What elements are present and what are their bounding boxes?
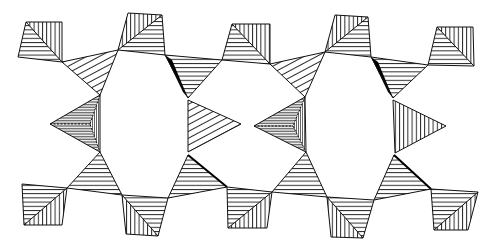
bottom-tetrahedron-2 (122, 195, 168, 236)
bottom-link-tetrahedron-2 (168, 155, 227, 198)
central-left-triangle-2 (254, 97, 306, 152)
bottom-link-tetrahedron-3 (272, 152, 327, 197)
top-link-tetrahedron-1 (62, 50, 118, 95)
crystal-structure-diagram (0, 0, 502, 251)
top-tetrahedron-3 (222, 24, 270, 64)
bottom-link-tetrahedron-4 (374, 155, 431, 200)
central-left-triangle-1 (50, 95, 100, 152)
top-link-tetrahedron-2 (165, 55, 222, 98)
bottom-tetrahedron-4 (327, 197, 374, 238)
top-tetrahedron-5 (428, 27, 474, 66)
top-tetrahedron-4 (325, 15, 371, 57)
central-right-triangle-2 (393, 100, 446, 153)
central-right-triangle-1 (188, 100, 241, 152)
bottom-tetrahedron-5 (431, 189, 478, 230)
top-link-tetrahedron-3 (270, 52, 325, 97)
bottom-tetrahedron-3 (227, 187, 272, 228)
top-tetrahedron-2 (118, 13, 165, 55)
top-tetrahedron-1 (18, 22, 62, 62)
bottom-tetrahedron-1 (22, 184, 67, 225)
bottom-link-tetrahedron-1 (67, 152, 122, 195)
top-link-tetrahedron-4 (371, 57, 428, 98)
